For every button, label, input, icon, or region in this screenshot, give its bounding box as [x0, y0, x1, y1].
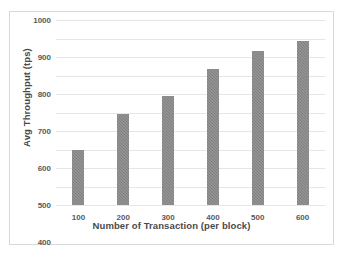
chart-figure: Avg Throughput (tps) 0100200300400500600…: [9, 11, 334, 245]
bar: [207, 69, 219, 205]
gridline: 800: [56, 57, 325, 58]
bar: [297, 41, 309, 205]
y-axis-tick-label: 700: [38, 127, 51, 136]
gridline: 1000: [56, 20, 325, 21]
x-axis-title: Number of Transaction (per block): [10, 220, 333, 231]
gridline: 900: [56, 39, 325, 40]
gridline: 100: [56, 187, 325, 188]
gridline: 400: [56, 131, 325, 132]
plot-area: 01002003004005006007008009001000: [56, 20, 325, 205]
y-axis-tick-label: 800: [38, 90, 51, 99]
bar: [72, 150, 84, 206]
y-axis-tick-label: 1000: [33, 16, 51, 25]
y-axis-tick-label: 400: [38, 238, 51, 247]
gridline: 600: [56, 94, 325, 95]
gridline: 700: [56, 76, 325, 77]
bar: [117, 114, 129, 205]
y-axis-tick-label: 600: [38, 164, 51, 173]
gridline: 300: [56, 150, 325, 151]
gridline: 200: [56, 168, 325, 169]
y-axis-tick-label: 500: [38, 201, 51, 210]
bar: [162, 96, 174, 205]
bar: [252, 51, 264, 205]
gridline: 500: [56, 113, 325, 114]
y-axis-title: Avg Throughput (tps): [21, 18, 32, 178]
y-axis-tick-label: 900: [38, 53, 51, 62]
x-axis-tick-labels: 100200300400500600: [56, 205, 325, 221]
